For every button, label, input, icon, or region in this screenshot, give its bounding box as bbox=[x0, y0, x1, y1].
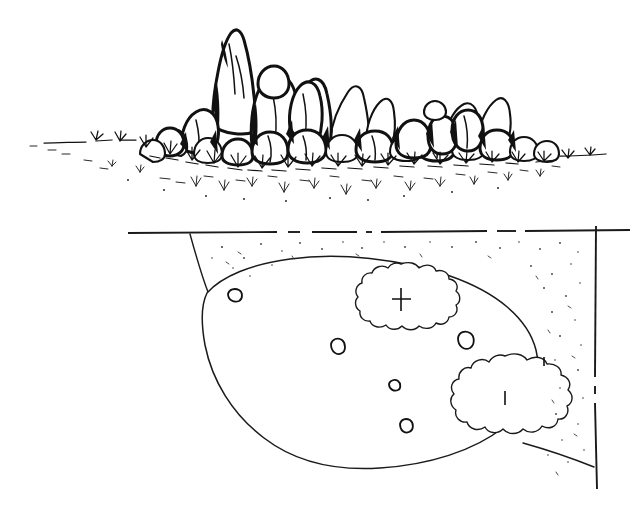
plan-panel bbox=[128, 226, 630, 489]
figure-root: Rock outcrop — elevation and plan study … bbox=[0, 0, 643, 505]
plan-stone-1 bbox=[228, 289, 242, 302]
rock-group-right bbox=[396, 101, 483, 158]
plan-stone-4 bbox=[389, 380, 400, 391]
plan-tree-north bbox=[356, 263, 460, 330]
elevation-panel bbox=[30, 30, 606, 202]
figure-canvas bbox=[0, 0, 643, 505]
plan-border-top bbox=[128, 230, 630, 233]
plan-stone-5 bbox=[400, 419, 413, 432]
plan-border-right bbox=[595, 226, 597, 489]
rock-peak bbox=[213, 30, 256, 134]
plan-leader-top-left bbox=[190, 234, 208, 292]
plan-leader-bottom-right bbox=[523, 443, 594, 467]
tree-canopy-north bbox=[356, 263, 460, 330]
plan-stone-2 bbox=[331, 339, 345, 354]
plan-stone-3 bbox=[458, 332, 474, 349]
